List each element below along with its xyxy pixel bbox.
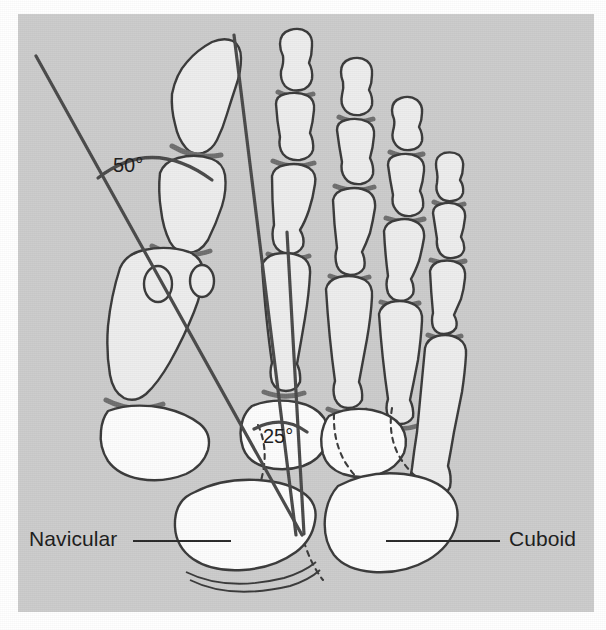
bone-distal-phalanx-5 — [436, 152, 463, 201]
angle-label-50: 50° — [113, 154, 143, 177]
bone-distal-phalanx-4 — [392, 97, 422, 150]
bone-proximal-phalanx-1 — [159, 156, 225, 253]
bone-proximal-phalanx-3 — [333, 188, 375, 275]
figure-root: .bone { fill:#ededed; stroke:#3a3a3a; st… — [0, 0, 606, 630]
bone-sesamoid-lateral — [190, 265, 214, 297]
angle-label-25: 25° — [263, 425, 293, 448]
bone-proximal-phalanx-5 — [430, 260, 465, 334]
bone-middle-phalanx-4 — [388, 154, 424, 216]
bone-metatarsal-4 — [379, 301, 422, 424]
bone-cuboid — [325, 473, 458, 572]
bone-medial-cuneiform — [101, 406, 209, 481]
bone-proximal-phalanx-4 — [384, 219, 424, 301]
bone-middle-phalanx-3 — [337, 119, 374, 184]
bone-distal-phalanx-2 — [280, 29, 312, 91]
bone-distal-phalanx-1 — [172, 39, 241, 154]
bone-proximal-phalanx-2 — [272, 164, 315, 254]
bone-middle-phalanx-5 — [433, 203, 465, 258]
label-cuboid: Cuboid — [509, 527, 576, 551]
label-navicular: Navicular — [29, 527, 117, 551]
bone-metatarsal-3 — [326, 276, 372, 408]
joint-space-tmt-2 — [264, 392, 304, 396]
bone-distal-phalanx-3 — [341, 58, 372, 115]
bone-middle-phalanx-2 — [276, 93, 314, 160]
